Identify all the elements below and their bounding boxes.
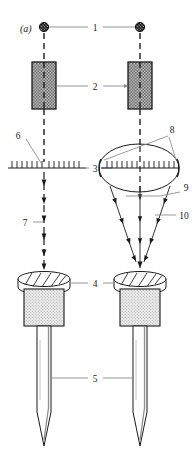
- stippled-body-right: [120, 289, 160, 326]
- callout-line-9-a: [160, 192, 180, 196]
- callout-label-3: 3: [93, 164, 98, 174]
- callout-label-7: 7: [23, 218, 28, 228]
- pointed-shank-right: [133, 326, 147, 446]
- callout-line-8-a: [104, 136, 168, 160]
- diagram-canvas: (a) 1 2: [0, 0, 196, 463]
- ray-left-oblique: [110, 186, 136, 262]
- stippled-block-left: [32, 62, 56, 109]
- parallel-beam-left: [42, 172, 47, 270]
- callout-line-8-b: [169, 137, 176, 160]
- callout-label-5: 5: [93, 374, 98, 384]
- filled-dot-right: [135, 22, 144, 31]
- figure-panel: (a) 1 2: [0, 0, 196, 463]
- callout-label-8: 8: [170, 125, 175, 135]
- callout-label-1: 1: [93, 23, 98, 33]
- panel-label: (a): [20, 23, 32, 35]
- callout-label-2: 2: [93, 82, 98, 92]
- stippled-body-left: [24, 289, 64, 326]
- graduated-scale-left: [8, 161, 86, 168]
- aperture-ellipse: [99, 144, 179, 192]
- callout-label-10: 10: [179, 211, 189, 221]
- callout-label-4: 4: [93, 279, 98, 289]
- stippled-block-right: [128, 62, 152, 109]
- converging-beam-right: [110, 186, 170, 268]
- ray-right-oblique: [144, 186, 170, 262]
- filled-dot-left: [39, 22, 48, 31]
- callout-line-6: [26, 139, 43, 166]
- pointed-shank-left: [37, 326, 51, 446]
- callout-label-6: 6: [16, 131, 21, 141]
- callout-label-9: 9: [184, 183, 189, 193]
